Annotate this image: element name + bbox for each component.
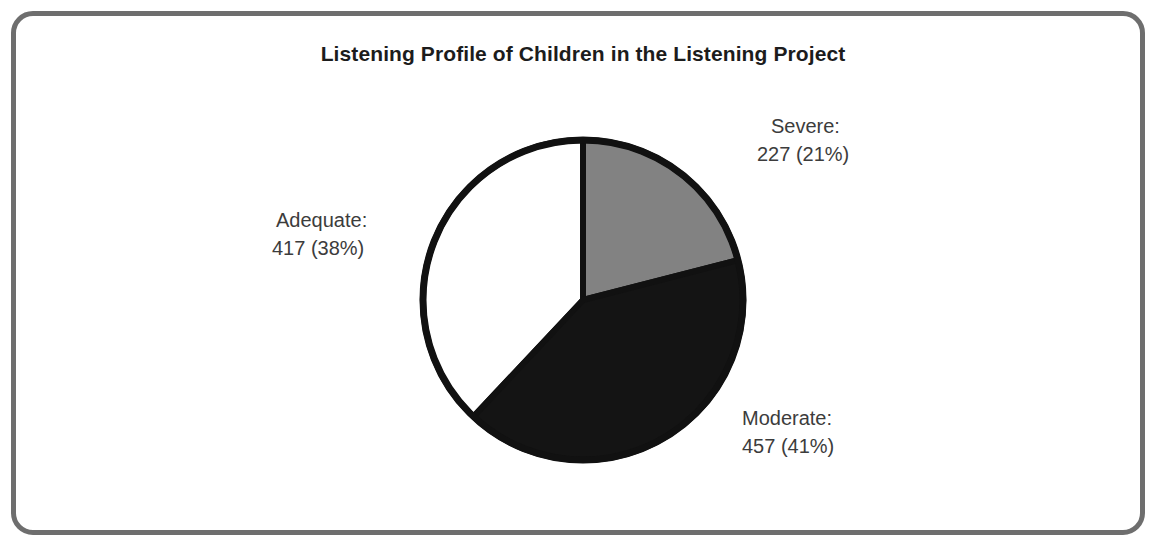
pie-label-moderate-value: 457 (41%) (742, 432, 834, 460)
pie-label-adequate-name: Adequate: (272, 206, 367, 234)
chart-title: Listening Profile of Children in the Lis… (0, 42, 1166, 66)
pie-label-adequate: Adequate: 417 (38%) (272, 206, 367, 263)
pie-label-severe-name: Severe: (757, 112, 849, 140)
pie-label-severe-value: 227 (21%) (757, 140, 849, 168)
chart-page: Listening Profile of Children in the Lis… (0, 0, 1166, 556)
pie-label-severe: Severe: 227 (21%) (757, 112, 849, 169)
pie-chart (418, 135, 748, 465)
pie-label-adequate-value: 417 (38%) (272, 234, 367, 262)
pie-label-moderate-name: Moderate: (742, 404, 834, 432)
pie-label-moderate: Moderate: 457 (41%) (742, 404, 834, 461)
pie-chart-svg (418, 135, 748, 465)
